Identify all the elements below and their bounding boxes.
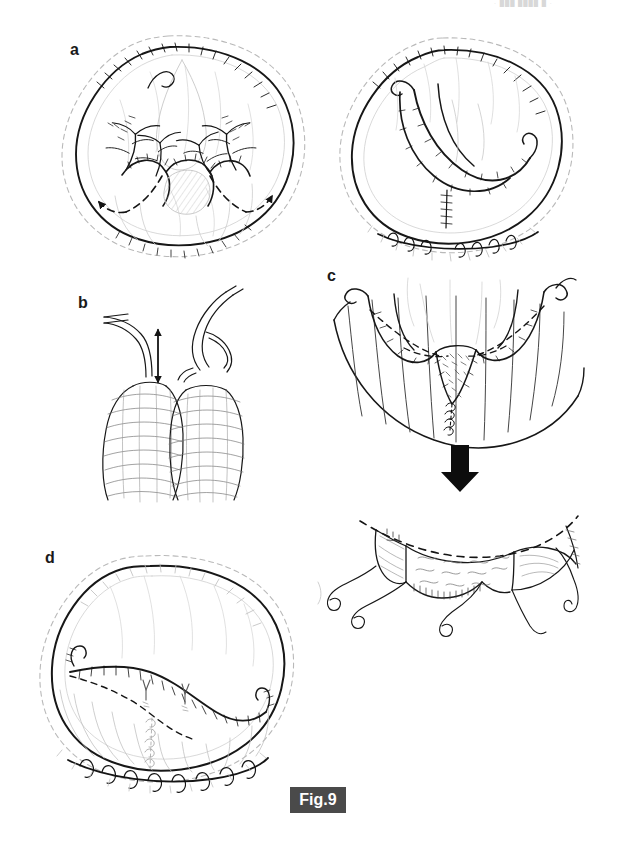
panel-a-right-illustration	[340, 38, 573, 261]
panel-b-illustration	[103, 286, 244, 502]
figure-page: · ███ ████ █ ·	[0, 0, 625, 843]
vessel-stump-marks	[143, 680, 189, 704]
incision-arrow-right	[246, 196, 272, 212]
panel-c-illustration	[334, 278, 584, 448]
figure-number-badge: Fig.9	[290, 787, 346, 813]
incision-arrow-left	[99, 202, 126, 213]
panel-label-d: d	[45, 550, 55, 566]
figure-artwork	[0, 0, 625, 843]
panel-label-c: c	[327, 268, 336, 284]
panel-c-result-illustration	[327, 516, 580, 637]
panel-d-illustration	[40, 556, 321, 793]
cropped-page-header-text: · ███ ████ █ ·	[494, 0, 622, 10]
panel-label-a: a	[70, 42, 79, 58]
downward-transition-arrow	[441, 445, 479, 492]
panel-label-b: b	[78, 295, 88, 311]
panel-a-left-illustration	[62, 36, 305, 258]
